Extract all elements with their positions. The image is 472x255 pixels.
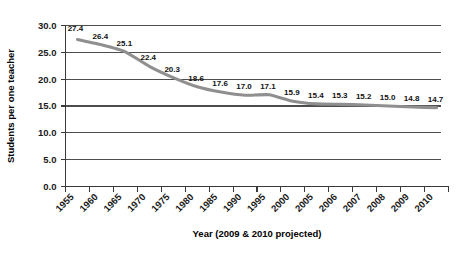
y-axis-tick-labels: 0.05.010.015.020.025.030.0 bbox=[38, 20, 57, 192]
y-tick-label: 5.0 bbox=[43, 154, 56, 165]
y-tick-label: 20.0 bbox=[38, 74, 57, 85]
x-axis-title: Year (2009 & 2010 projected) bbox=[193, 228, 322, 239]
x-axis-tickmarks bbox=[66, 187, 449, 192]
y-tick-label: 30.0 bbox=[38, 20, 57, 31]
x-tick-label: 2005 bbox=[293, 191, 316, 214]
data-point-label: 15.3 bbox=[332, 91, 348, 100]
x-tick-label: 1970 bbox=[125, 191, 148, 214]
data-point-label: 14.7 bbox=[428, 95, 444, 104]
x-tick-label: 1990 bbox=[221, 191, 244, 214]
y-axis-title: Students per one teacher bbox=[5, 49, 16, 163]
x-axis-tick-labels: 1955196019651970197519801985199019952000… bbox=[53, 191, 435, 214]
data-point-label: 14.8 bbox=[404, 94, 420, 103]
x-tick-label: 1985 bbox=[197, 191, 220, 214]
data-point-label: 15.4 bbox=[308, 91, 324, 100]
x-tick-label: 2010 bbox=[412, 191, 435, 214]
y-tick-label: 15.0 bbox=[38, 100, 57, 111]
data-point-label: 15.9 bbox=[284, 88, 300, 97]
data-point-label: 17.6 bbox=[212, 79, 228, 88]
x-tick-label: 2000 bbox=[269, 191, 292, 214]
data-point-label: 15.2 bbox=[356, 92, 372, 101]
x-tick-label: 2006 bbox=[316, 191, 339, 214]
y-axis-tickmarks bbox=[61, 26, 66, 187]
x-tick-label: 2008 bbox=[364, 191, 387, 214]
data-point-label: 25.1 bbox=[117, 39, 133, 48]
x-tick-label: 1975 bbox=[149, 191, 172, 214]
data-point-label: 26.4 bbox=[93, 32, 109, 41]
y-tick-label: 10.0 bbox=[38, 127, 57, 138]
line-chart: 0.05.010.015.020.025.030.0 1955196019651… bbox=[0, 0, 472, 255]
data-point-label: 17.1 bbox=[260, 82, 276, 91]
x-tick-label: 2009 bbox=[388, 191, 411, 214]
data-point-labels: 27.426.425.122.420.318.617.617.017.115.9… bbox=[68, 24, 444, 103]
x-tick-label: 2007 bbox=[340, 191, 363, 214]
data-point-label: 18.6 bbox=[188, 74, 204, 83]
data-point-label: 17.0 bbox=[236, 82, 252, 91]
data-point-label: 15.0 bbox=[380, 93, 396, 102]
y-tick-label: 0.0 bbox=[43, 181, 56, 192]
x-tick-label: 1955 bbox=[53, 191, 76, 214]
x-tick-label: 1995 bbox=[245, 191, 268, 214]
x-tick-label: 1965 bbox=[101, 191, 124, 214]
data-point-label: 22.4 bbox=[140, 53, 156, 62]
chart-container: 0.05.010.015.020.025.030.0 1955196019651… bbox=[0, 0, 472, 255]
data-point-label: 27.4 bbox=[68, 24, 84, 33]
x-tick-label: 1960 bbox=[77, 191, 100, 214]
data-point-label: 20.3 bbox=[164, 65, 180, 74]
y-tick-label: 25.0 bbox=[38, 47, 57, 58]
x-tick-label: 1980 bbox=[173, 191, 196, 214]
